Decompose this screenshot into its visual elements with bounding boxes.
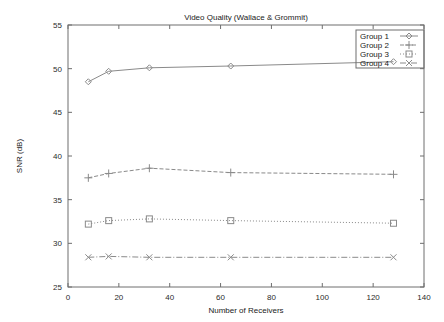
y-axis-tick-label: 30: [53, 239, 62, 248]
x-axis-tick-label: 140: [417, 293, 431, 302]
y-axis-tick-label: 45: [53, 108, 62, 117]
y-axis-title: SNR (dB): [15, 139, 24, 174]
chart-figure: 02040608010012014025303540455055Video Qu…: [0, 0, 444, 322]
x-axis-tick-label: 80: [267, 293, 276, 302]
series-line-3: [88, 219, 393, 224]
series-line-1: [88, 62, 393, 82]
y-axis-tick-label: 35: [53, 196, 62, 205]
x-axis-tick-label: 60: [216, 293, 225, 302]
legend-label-3: Group 3: [360, 50, 389, 59]
legend-label-4: Group 4: [360, 59, 389, 68]
chart-canvas: 02040608010012014025303540455055Video Qu…: [0, 0, 444, 322]
y-axis-tick-label: 25: [53, 283, 62, 292]
y-axis-tick-label: 40: [53, 152, 62, 161]
series-line-2: [88, 168, 393, 178]
chart-title: Video Quality (Wallace & Grommit): [184, 13, 308, 22]
x-axis-title: Number of Receivers: [208, 306, 283, 315]
x-axis-tick-label: 100: [316, 293, 330, 302]
y-axis-tick-label: 55: [53, 21, 62, 30]
x-axis-tick-label: 0: [66, 293, 71, 302]
x-axis-tick-label: 40: [165, 293, 174, 302]
series-line-4: [88, 256, 393, 257]
x-axis-tick-label: 20: [114, 293, 123, 302]
y-axis-tick-label: 50: [53, 65, 62, 74]
legend-label-1: Group 1: [360, 32, 389, 41]
legend-label-2: Group 2: [360, 41, 389, 50]
x-axis-tick-label: 120: [366, 293, 380, 302]
